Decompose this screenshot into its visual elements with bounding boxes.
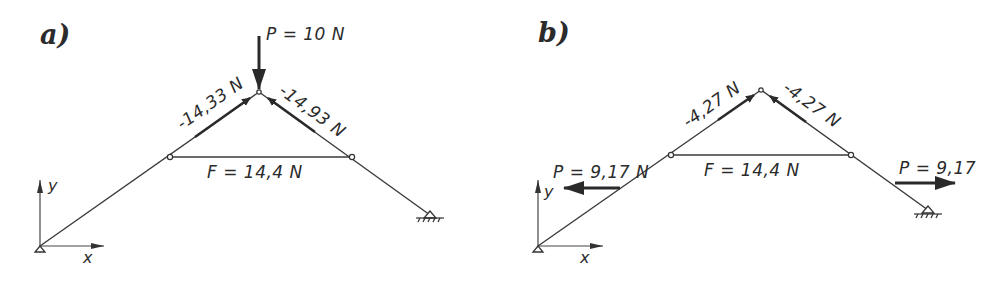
coordinate-axes-a: y x <box>40 176 104 267</box>
right-load-label: P = 9,17 <box>899 158 976 178</box>
left-load-label: P = 9,17 N <box>553 162 649 182</box>
y-axis-label: y <box>543 182 554 201</box>
tie-force-label: F = 14,4 N <box>207 162 303 182</box>
left-joint-pin-icon <box>167 154 172 159</box>
left-member-force-label: -14,33 N <box>173 73 247 134</box>
left-pin-support-icon <box>35 246 45 252</box>
right-roller-support-icon <box>416 211 444 222</box>
truss-figure: a) y x P = 10 N <box>0 0 1007 281</box>
panel-a: a) y x P = 10 N <box>35 19 444 267</box>
left-pin-support-icon <box>533 246 543 252</box>
right-roller-support-icon <box>914 206 942 218</box>
load-p-label: P = 10 N <box>266 24 345 44</box>
tie-force-label: F = 14,4 N <box>704 160 800 180</box>
left-joint-pin-icon <box>668 152 673 157</box>
right-member-force-label: -4,27 N <box>780 77 845 132</box>
x-axis-label: x <box>82 248 93 267</box>
left-member-force-label: -4,27 N <box>679 77 744 131</box>
panel-b: b) y x P = 9,17 <box>533 17 976 267</box>
y-axis-label: y <box>47 176 58 195</box>
apex-joint-pin-icon <box>257 90 261 94</box>
x-axis-label: x <box>579 248 590 267</box>
apex-joint-pin-icon <box>759 88 763 92</box>
panel-a-label: a) <box>40 19 70 50</box>
right-joint-pin-icon <box>349 154 354 159</box>
right-joint-pin-icon <box>848 152 853 157</box>
panel-b-label: b) <box>538 17 570 48</box>
